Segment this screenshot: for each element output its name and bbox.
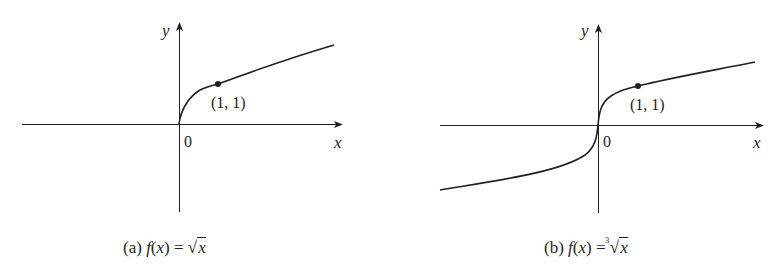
caption-a: (a) f(x) = √x: [123, 238, 206, 258]
caption-var: x: [578, 238, 586, 257]
panel-a-graph: y x 0 (1, 1): [22, 21, 342, 212]
y-axis-label: y: [579, 21, 589, 40]
y-axis-label: y: [160, 21, 170, 40]
caption-b: (b) f(x) = 3√x: [544, 238, 628, 258]
point-label: (1, 1): [630, 96, 665, 114]
x-axis-label: x: [752, 133, 761, 152]
radicand: x: [619, 237, 628, 257]
cbrt-symbol: 3√x: [610, 238, 628, 258]
origin-label: 0: [603, 133, 611, 150]
caption-prefix: (b): [544, 238, 568, 257]
panel-b-graph: y x 0 (1, 1): [440, 21, 763, 213]
sqrt-symbol: √x: [188, 238, 206, 258]
sqrt-curve: [179, 45, 334, 124]
point-1-1-marker: [215, 81, 221, 87]
caption-equals: ) =: [164, 238, 188, 257]
point-label: (1, 1): [211, 94, 246, 112]
origin-label: 0: [184, 133, 192, 150]
figure-canvas: y x 0 (1, 1) y x 0 (1, 1): [0, 0, 771, 273]
radical-index: 3: [605, 235, 610, 245]
caption-var: x: [157, 238, 165, 257]
x-axis-label: x: [333, 133, 342, 152]
radicand: x: [197, 237, 206, 257]
point-1-1-marker: [635, 83, 641, 89]
caption-prefix: (a): [123, 238, 146, 257]
